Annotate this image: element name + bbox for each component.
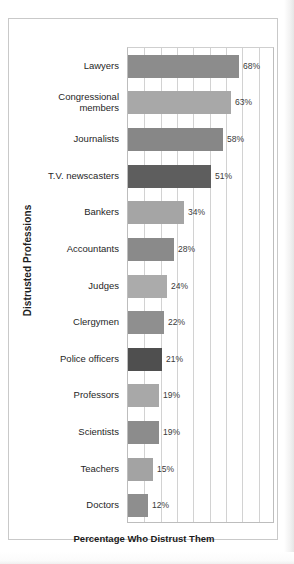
category-label: Journalists	[21, 133, 119, 144]
category-label: Congressionalmembers	[21, 91, 119, 113]
category-label-line: Judges	[21, 280, 119, 291]
category-label: Bankers	[21, 206, 119, 217]
bar	[128, 384, 159, 407]
category-label-line: members	[21, 102, 119, 113]
bar	[128, 311, 164, 334]
category-label: Doctors	[21, 499, 119, 510]
scan-top-edge	[0, 0, 294, 14]
bar	[128, 91, 231, 114]
gridline	[242, 48, 243, 522]
scan-bottom-shadow	[0, 552, 294, 564]
bar-value-label: 68%	[243, 55, 260, 78]
category-label: T.V. newscasters	[21, 170, 119, 181]
category-label-column: LawyersCongressionalmembersJournalistsT.…	[21, 47, 119, 523]
category-label-line: Bankers	[21, 206, 119, 217]
gridline	[210, 48, 211, 522]
category-label-line: Doctors	[21, 499, 119, 510]
category-label-line: Journalists	[21, 133, 119, 144]
bar-value-label: 34%	[188, 201, 205, 224]
category-label: Teachers	[21, 463, 119, 474]
gridline	[226, 48, 227, 522]
plot-area: 68%63%58%51%34%28%24%22%21%19%19%15%12%	[127, 47, 274, 523]
category-label-line: Clergymen	[21, 316, 119, 327]
bar	[128, 458, 153, 481]
category-label-line: T.V. newscasters	[21, 170, 119, 181]
bar-value-label: 28%	[178, 238, 195, 261]
bar	[128, 494, 148, 517]
category-label-line: Lawyers	[21, 60, 119, 71]
page-background: Distrusted Professions LawyersCongressio…	[0, 0, 294, 564]
category-label-line: Professors	[21, 389, 119, 400]
bar-value-label: 63%	[235, 91, 252, 114]
category-label: Accountants	[21, 243, 119, 254]
gridline	[193, 48, 194, 522]
gridline	[259, 48, 260, 522]
bar-value-label: 51%	[215, 165, 232, 188]
bar-value-label: 15%	[157, 458, 174, 481]
bar-value-label: 21%	[166, 348, 183, 371]
category-label: Scientists	[21, 426, 119, 437]
category-label-line: Teachers	[21, 463, 119, 474]
x-axis-title: Percentage Who Distrust Them	[9, 533, 279, 544]
bar	[128, 165, 211, 188]
category-label: Clergymen	[21, 316, 119, 327]
bar	[128, 201, 184, 224]
bar	[128, 128, 223, 151]
bar-value-label: 19%	[163, 384, 180, 407]
category-label-line: Scientists	[21, 426, 119, 437]
bar-value-label: 58%	[227, 128, 244, 151]
category-label: Police officers	[21, 353, 119, 364]
bar	[128, 348, 162, 371]
category-label-line: Accountants	[21, 243, 119, 254]
category-label: Judges	[21, 280, 119, 291]
category-label: Professors	[21, 389, 119, 400]
bar-value-label: 12%	[152, 494, 169, 517]
bar-value-label: 24%	[171, 275, 188, 298]
chart-figure: Distrusted Professions LawyersCongressio…	[8, 18, 278, 540]
bar-value-label: 22%	[168, 311, 185, 334]
bar	[128, 275, 167, 298]
bar	[128, 55, 239, 78]
bar-value-label: 19%	[163, 421, 180, 444]
category-label-line: Congressional	[21, 91, 119, 102]
category-label-line: Police officers	[21, 353, 119, 364]
bar	[128, 421, 159, 444]
category-label: Lawyers	[21, 60, 119, 71]
scan-right-edge	[284, 0, 294, 564]
bar	[128, 238, 174, 261]
